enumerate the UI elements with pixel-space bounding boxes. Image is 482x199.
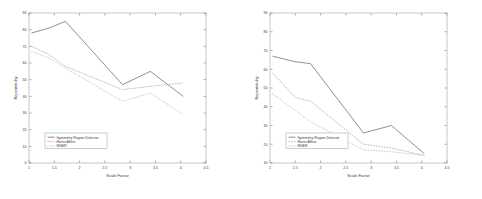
ytick-label: 50 [23,78,27,82]
ytick-label: 40 [264,105,268,109]
xtick-label: 4 [421,166,423,170]
right-plot-svg: 11.522.533.544.5 102030405060708090 Scal… [241,0,482,199]
right-xaxis-title: Scale Factor [347,173,370,178]
ytick-label: 70 [23,45,27,49]
figure-canvas: 11.522.533.544.5 0102030405060708090 Sca… [0,0,482,199]
legend-label-0: Symmetry Region Detector [57,136,100,140]
series-line-0 [32,21,184,96]
ytick-label: 20 [23,128,27,132]
legend-label-1: Harris Affine [57,140,76,144]
xtick-label: 3.5 [153,166,158,170]
left-plot-svg: 11.522.533.544.5 0102030405060708090 Sca… [0,0,241,199]
right-yaxis-title: Repeatability [254,76,259,99]
legend-label-2: MSER [57,144,68,148]
xtick-label: 3 [129,166,131,170]
series-line-2 [32,51,184,114]
legend-label-1: Harris Affine [298,140,317,144]
right-legend[interactable]: Symmetry Region DetectorHarris AffineMSE… [286,133,348,149]
xtick-label: 1 [28,166,30,170]
left-xaxis-title: Scale Factor [106,173,129,178]
ytick-label: 10 [23,145,27,149]
chart-panel-left: 11.522.533.544.5 0102030405060708090 Sca… [0,0,241,199]
ytick-label: 70 [264,49,268,53]
xtick-label: 4.5 [204,166,209,170]
xtick-label: 1 [269,166,271,170]
xtick-label: 2 [79,166,81,170]
left-legend[interactable]: Symmetry Region DetectorHarris AffineMSE… [45,133,107,149]
left-yaxis-title: Repeatability [13,76,18,99]
ytick-label: 60 [23,61,27,65]
legend-label-2: MSER [298,144,309,148]
xtick-label: 2.5 [102,166,107,170]
ytick-label: 50 [264,86,268,90]
xtick-label: 4 [180,166,182,170]
ytick-label: 90 [264,11,268,15]
ytick-label: 80 [23,28,27,32]
xtick-label: 3.5 [394,166,399,170]
xtick-label: 1.5 [52,166,57,170]
xtick-label: 3 [370,166,372,170]
legend-label-0: Symmetry Region Detector [298,136,341,140]
xtick-label: 4.5 [445,166,450,170]
ytick-label: 30 [264,124,268,128]
ytick-label: 30 [23,111,27,115]
xtick-label: 1.5 [293,166,298,170]
ytick-label: 60 [264,68,268,72]
ytick-label: 10 [264,161,268,165]
ytick-label: 40 [23,95,27,99]
left-series-group [32,21,184,114]
ytick-label: 80 [264,30,268,34]
ytick-label: 20 [264,143,268,147]
ytick-label: 90 [23,11,27,15]
ytick-label: 0 [25,161,27,165]
xtick-label: 2 [320,166,322,170]
chart-panel-right: 11.522.533.544.5 102030405060708090 Scal… [241,0,482,199]
xtick-label: 2.5 [343,166,348,170]
